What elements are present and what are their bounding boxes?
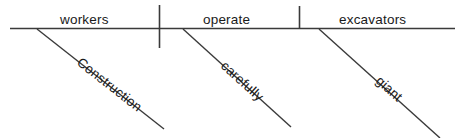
verb-modifier-label: carefully xyxy=(218,58,267,104)
object-word-label: excavators xyxy=(339,12,406,27)
sentence-diagram: workers operate excavators Construction … xyxy=(0,0,462,138)
subject-word-label: workers xyxy=(59,12,109,27)
diagram-drawing: workers operate excavators Construction … xyxy=(0,0,462,138)
verb-word-label: operate xyxy=(203,12,250,27)
subject-modifier-label: Construction xyxy=(74,55,145,115)
object-modifier-label: giant xyxy=(373,73,406,104)
